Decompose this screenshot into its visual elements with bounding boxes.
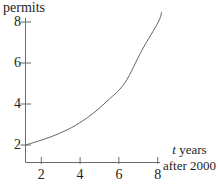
y-tick-label: 8: [0, 13, 21, 31]
x-axis-variable: t: [172, 142, 176, 157]
y-tick-label: 4: [0, 95, 21, 113]
x-axis-title: t years after 2000: [161, 142, 218, 174]
x-tick-label: 4: [71, 166, 89, 184]
x-axis-title-line2: after 2000: [161, 158, 218, 174]
permits-growth-figure: permits t years after 2000 24682468: [0, 0, 218, 184]
y-tick-label: 2: [0, 136, 21, 154]
x-tick-label: 2: [32, 166, 50, 184]
permits-curve: [26, 12, 162, 145]
x-tick-label: 6: [110, 166, 128, 184]
y-tick-label: 6: [0, 54, 21, 72]
x-axis-units: years: [179, 142, 206, 157]
x-tick-label: 8: [149, 166, 167, 184]
x-axis-title-line1: t years: [161, 142, 218, 158]
